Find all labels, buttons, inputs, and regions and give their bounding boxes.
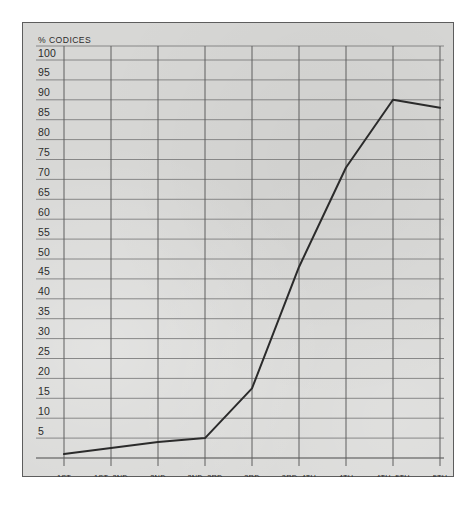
y-axis-label-55: 55 [38, 226, 50, 238]
x-axis-label-0: 1ST [57, 473, 71, 477]
y-axis-label-65: 65 [38, 186, 50, 198]
y-axis-label-80: 80 [38, 126, 50, 138]
y-axis-label-5: 5 [38, 425, 44, 437]
y-axis-label-60: 60 [38, 206, 50, 218]
y-axis-label-70: 70 [38, 166, 50, 178]
x-axis-label-4: 3RD [244, 473, 259, 477]
y-axis-label-30: 30 [38, 325, 50, 337]
x-axis-labels: 1STCENTURY1ST–2NDCENTURY2NDCENTURY2ND–3R… [46, 473, 455, 477]
x-axis-label-5: 3RD–4TH [282, 473, 316, 477]
y-axis-label-90: 90 [38, 86, 50, 98]
y-axis-label-95: 95 [38, 66, 50, 78]
figure-container: 1009590858075706560555045403530252015105… [0, 0, 476, 519]
y-axis-label-45: 45 [38, 265, 50, 277]
x-axis-label-1: 1ST–2ND [94, 473, 128, 477]
y-axis-label-20: 20 [38, 365, 50, 377]
y-axis-label-75: 75 [38, 146, 50, 158]
y-axis-label-25: 25 [38, 345, 50, 357]
y-axis-label-10: 10 [38, 405, 50, 417]
x-axis-label-7: 4TH–5TH [376, 473, 409, 477]
y-axis-title: % CODICES [38, 35, 91, 45]
gridlines [36, 46, 444, 458]
x-axis-label-3: 2ND–3RD [187, 473, 222, 477]
y-axis-label-85: 85 [38, 106, 50, 118]
chart-plot-area: 1009590858075706560555045403530252015105… [22, 22, 454, 477]
line-chart: 1009590858075706560555045403530252015105… [22, 22, 454, 477]
x-axis-label-2: 2ND [150, 473, 165, 477]
x-axis-label-6: 4TH [339, 473, 354, 477]
y-axis-label-100: 100 [38, 47, 56, 59]
y-axis-label-40: 40 [38, 285, 50, 297]
y-axis-label-35: 35 [38, 305, 50, 317]
y-axis-label-50: 50 [38, 246, 50, 258]
y-axis-label-15: 15 [38, 385, 50, 397]
category-gridlines [64, 46, 440, 466]
x-axis-label-8: 5TH [433, 473, 448, 477]
